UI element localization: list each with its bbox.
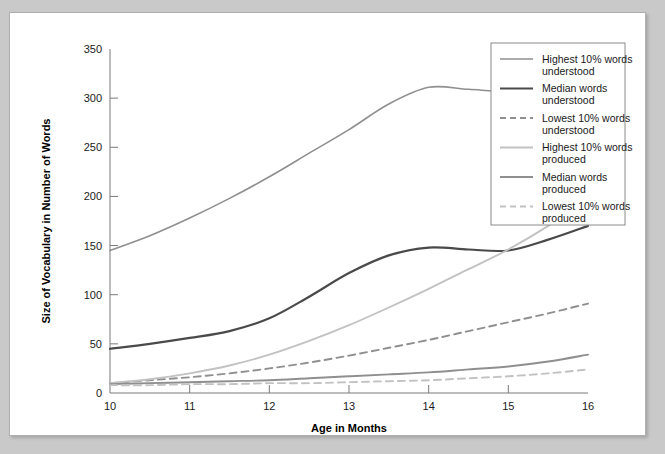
figure-card: 050100150200250300350 10111213141516 Siz… bbox=[9, 12, 646, 436]
y-tick-label: 100 bbox=[84, 289, 102, 301]
legend-label-4: Median words bbox=[542, 171, 607, 183]
y-tick-label: 350 bbox=[84, 43, 102, 55]
vocabulary-growth-chart: 050100150200250300350 10111213141516 Siz… bbox=[10, 13, 647, 437]
series-line-2 bbox=[110, 304, 588, 384]
x-tick-label: 14 bbox=[423, 400, 435, 412]
x-tick-label: 12 bbox=[263, 400, 275, 412]
y-axis-title: Size of Vocabulary in Number of Words bbox=[40, 119, 52, 324]
y-tick-label: 250 bbox=[84, 141, 102, 153]
legend-label-4-line2: produced bbox=[542, 183, 586, 195]
y-tick-label: 200 bbox=[84, 190, 102, 202]
x-tick-label: 11 bbox=[184, 400, 195, 412]
legend-label-2: Lowest 10% words bbox=[542, 112, 630, 124]
y-tick-label: 150 bbox=[84, 240, 102, 252]
x-axis-ticks: 10111213141516 bbox=[104, 385, 594, 412]
legend-label-5-line2: produced bbox=[542, 212, 586, 224]
x-tick-label: 16 bbox=[582, 400, 594, 412]
x-tick-label: 10 bbox=[104, 400, 116, 412]
y-tick-label: 0 bbox=[96, 387, 102, 399]
legend-label-2-line2: understood bbox=[542, 124, 595, 136]
legend-label-3: Highest 10% words bbox=[542, 141, 632, 153]
chart-legend: Highest 10% wordsunderstoodMedian wordsu… bbox=[491, 43, 632, 225]
legend-label-1-line2: understood bbox=[542, 94, 595, 106]
x-tick-label: 13 bbox=[343, 400, 355, 412]
y-tick-label: 300 bbox=[84, 92, 102, 104]
x-tick-label: 15 bbox=[502, 400, 514, 412]
legend-label-0: Highest 10% words bbox=[542, 53, 632, 65]
legend-label-3-line2: produced bbox=[542, 153, 586, 165]
y-tick-label: 50 bbox=[90, 338, 102, 350]
page-root: 050100150200250300350 10111213141516 Siz… bbox=[0, 0, 665, 454]
legend-label-5: Lowest 10% words bbox=[542, 200, 630, 212]
legend-label-0-line2: understood bbox=[542, 65, 595, 77]
y-axis-ticks: 050100150200250300350 bbox=[84, 43, 118, 399]
series-line-4 bbox=[110, 355, 588, 384]
x-axis-title: Age in Months bbox=[311, 422, 387, 434]
legend-label-1: Median words bbox=[542, 82, 607, 94]
